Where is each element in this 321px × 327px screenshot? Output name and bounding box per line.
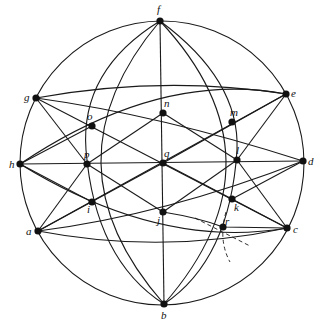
- label-q: q: [164, 147, 170, 159]
- label-f: f: [157, 3, 162, 15]
- line-q-k: [163, 163, 232, 199]
- label-p: p: [83, 148, 90, 160]
- point-j: [159, 208, 166, 215]
- point-o: [88, 122, 95, 129]
- point-f: [156, 17, 163, 24]
- line-a-p: [38, 164, 87, 231]
- label-c: c: [293, 223, 298, 235]
- line-d-l-k: [232, 161, 303, 199]
- label-o: o: [87, 110, 93, 122]
- point-h: [16, 160, 23, 167]
- line-k-c: [232, 199, 287, 228]
- point-l: [233, 156, 240, 163]
- label-r: r: [225, 215, 230, 227]
- label-g: g: [24, 91, 30, 103]
- label-a: a: [26, 225, 32, 237]
- label-b: b: [161, 309, 167, 321]
- point-e: [282, 90, 289, 97]
- label-h: h: [9, 158, 15, 170]
- point-d: [299, 157, 306, 164]
- point-m: [228, 118, 235, 125]
- label-m: m: [230, 106, 238, 118]
- line-n-m-l: [163, 113, 237, 160]
- label-j: j: [155, 214, 160, 226]
- line-h-o: [20, 126, 92, 164]
- point-q: [159, 159, 166, 166]
- point-a: [34, 227, 41, 234]
- dashed-construction-lines: [195, 212, 250, 262]
- point-b: [160, 300, 167, 307]
- point-n: [159, 109, 166, 116]
- label-n: n: [164, 97, 170, 109]
- label-l: l: [236, 144, 239, 156]
- label-d: d: [308, 155, 314, 167]
- great-circle-h-o-n-e: [20, 89, 286, 164]
- line-g-o-p: [36, 98, 87, 164]
- point-p: [83, 160, 90, 167]
- line-e-l: [237, 94, 286, 160]
- stereogram-diagram: fgonmehpqldiajkrcb: [0, 0, 321, 327]
- point-c: [283, 224, 290, 231]
- pole-points: [16, 17, 306, 307]
- line-j-k-l: [163, 160, 237, 212]
- point-g: [32, 94, 39, 101]
- label-e: e: [291, 87, 296, 99]
- line-p-j: [87, 164, 163, 212]
- line-h-i-j: [20, 164, 92, 202]
- label-i: i: [87, 203, 90, 215]
